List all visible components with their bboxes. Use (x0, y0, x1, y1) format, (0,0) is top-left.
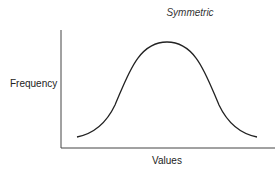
chart-plot-area (0, 0, 280, 177)
bell-curve (77, 42, 257, 137)
